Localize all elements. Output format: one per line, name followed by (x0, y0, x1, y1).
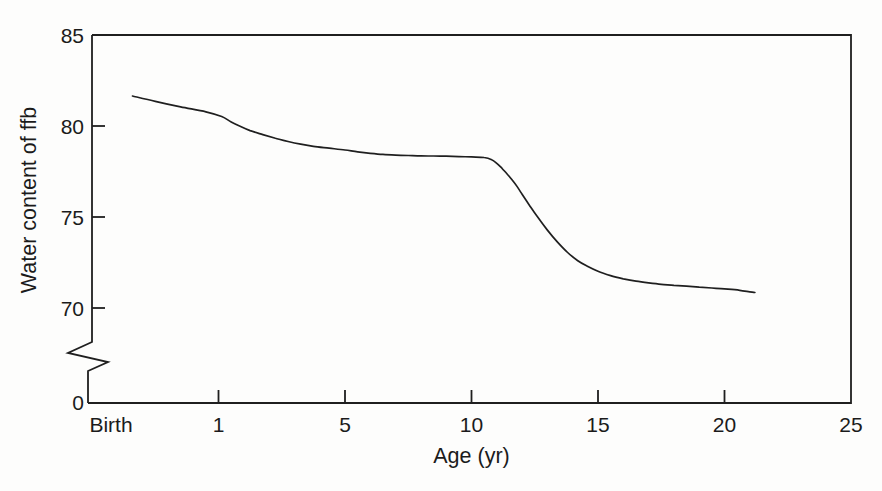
x-tick-label-25: 25 (839, 413, 862, 436)
figure-water-content-chart: 858075700Birth1510152025Age (yr)Water co… (0, 0, 882, 491)
chart-canvas: 858075700Birth1510152025Age (yr)Water co… (0, 0, 882, 491)
x-tick-label-10: 10 (460, 413, 483, 436)
x-tick-label-20: 20 (713, 413, 736, 436)
x-tick-label-1: 1 (213, 413, 225, 436)
x-tick-label-5: 5 (339, 413, 351, 436)
y-tick-label-85: 85 (61, 24, 84, 47)
x-axis-title: Age (yr) (433, 444, 509, 468)
y-axis-title: Water content of ffb (17, 107, 41, 293)
y-tick-label-75: 75 (61, 206, 84, 229)
x-tick-label-15: 15 (586, 413, 609, 436)
data-curve-water-content (133, 96, 755, 293)
y-origin-label: 0 (72, 391, 84, 414)
y-tick-label-70: 70 (61, 297, 84, 320)
plot-frame (88, 35, 851, 403)
y-tick-label-80: 80 (61, 115, 84, 138)
x-tick-label-Birth: Birth (89, 413, 132, 436)
